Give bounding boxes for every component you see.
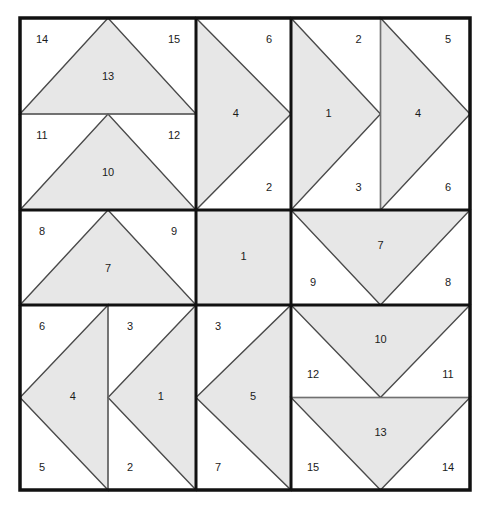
shape-label: 4 bbox=[70, 390, 76, 402]
shape-label: 13 bbox=[374, 426, 386, 438]
cell-r1c1: 1 bbox=[196, 210, 291, 305]
shape-label: 13 bbox=[102, 70, 114, 82]
corner-label: 8 bbox=[39, 225, 45, 237]
corner-label: 8 bbox=[445, 276, 451, 288]
triangle-grid-svg: 1314151011124621234567891798465132537101… bbox=[0, 0, 489, 510]
corner-label: 9 bbox=[171, 225, 177, 237]
corner-label: 3 bbox=[215, 320, 221, 332]
corner-label: 14 bbox=[442, 461, 454, 473]
corner-label: 3 bbox=[127, 320, 133, 332]
shape-label: 7 bbox=[105, 262, 111, 274]
shape-label: 7 bbox=[377, 239, 383, 251]
corner-label: 14 bbox=[36, 33, 48, 45]
shape-label: 5 bbox=[250, 390, 256, 402]
corner-label: 2 bbox=[127, 461, 133, 473]
corner-label: 9 bbox=[310, 276, 316, 288]
corner-label: 6 bbox=[39, 320, 45, 332]
corner-label: 2 bbox=[355, 33, 361, 45]
corner-label: 6 bbox=[445, 181, 451, 193]
corner-label: 5 bbox=[445, 33, 451, 45]
corner-label: 15 bbox=[168, 33, 180, 45]
shape-label: 1 bbox=[326, 107, 332, 119]
shape-label: 4 bbox=[415, 107, 421, 119]
corner-label: 5 bbox=[39, 461, 45, 473]
shape-label: 4 bbox=[233, 107, 239, 119]
corner-label: 11 bbox=[442, 368, 453, 380]
corner-label: 2 bbox=[266, 181, 272, 193]
corner-label: 6 bbox=[266, 33, 272, 45]
diagram-board: 1314151011124621234567891798465132537101… bbox=[0, 0, 489, 510]
shape-label: 1 bbox=[240, 250, 246, 262]
shape-label: 10 bbox=[102, 166, 114, 178]
corner-label: 11 bbox=[36, 129, 47, 141]
shape-label: 1 bbox=[158, 390, 164, 402]
corner-label: 3 bbox=[355, 181, 361, 193]
cell-r2c2: 101211131514 bbox=[291, 305, 470, 490]
shape-label: 10 bbox=[374, 333, 386, 345]
corner-label: 12 bbox=[307, 368, 319, 380]
corner-label: 7 bbox=[215, 461, 221, 473]
corner-label: 12 bbox=[168, 129, 180, 141]
corner-label: 15 bbox=[307, 461, 319, 473]
